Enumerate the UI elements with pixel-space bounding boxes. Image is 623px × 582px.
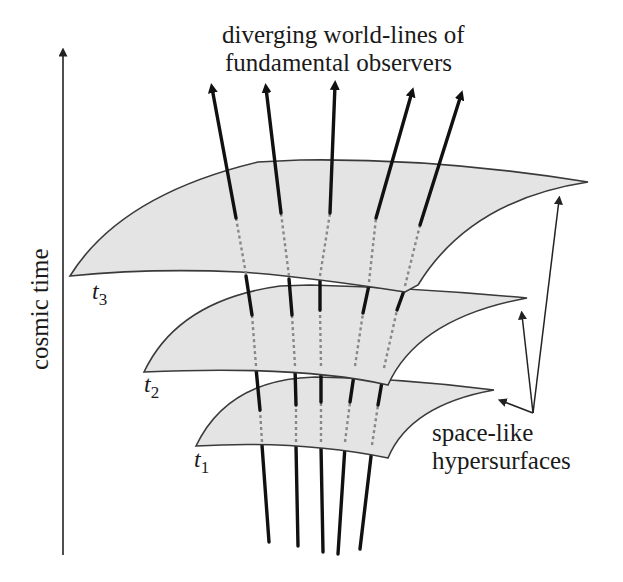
svg-text:t2: t2 [144, 371, 159, 402]
hypersurface-t2 [144, 285, 527, 385]
label-t2-sub: 2 [151, 383, 160, 402]
pointer-t1-icon [502, 401, 533, 413]
annotation-pointers [502, 200, 559, 413]
title-line-2: fundamental observers [225, 49, 452, 76]
pointer-t2-icon [522, 315, 533, 413]
cosmology-diagram: diverging world-lines of fundamental obs… [0, 0, 623, 582]
title-line-1: diverging world-lines of [222, 21, 465, 48]
world-lines-lower [262, 445, 372, 554]
svg-text:t1: t1 [194, 446, 209, 477]
hypersurface-t3 [70, 160, 588, 292]
label-t1-sub: 1 [201, 458, 210, 477]
axis-label: cosmic time [26, 249, 53, 371]
label-t3: t3 [92, 278, 107, 309]
label-t2: t2 [144, 371, 159, 402]
pointer-t3-icon [533, 200, 559, 413]
annotation-line-2: hypersurfaces [432, 447, 571, 474]
svg-text:t3: t3 [92, 278, 107, 309]
label-t1: t1 [194, 446, 209, 477]
annotation-line-1: space-like [432, 419, 533, 446]
diagram-svg: diverging world-lines of fundamental obs… [0, 0, 623, 582]
label-t3-sub: 3 [99, 290, 108, 309]
